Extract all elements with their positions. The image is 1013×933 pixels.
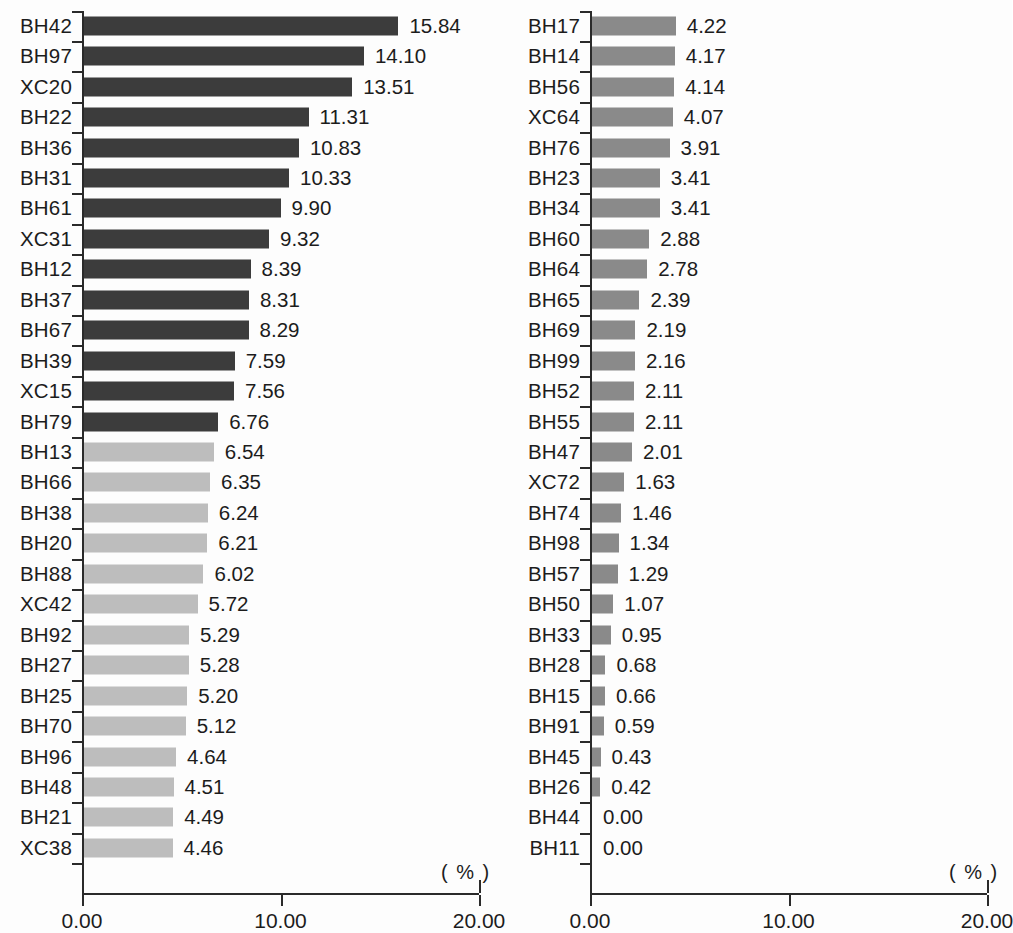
category-label: BH65 — [528, 288, 580, 312]
bar-value-label: 8.39 — [262, 257, 302, 281]
category-label: BH25 — [20, 684, 72, 708]
category-label: BH76 — [528, 136, 580, 160]
bar — [592, 747, 601, 766]
category-label: BH64 — [528, 257, 580, 281]
bar-value-label: 3.41 — [671, 166, 711, 190]
bar-value-label: 7.59 — [246, 349, 286, 373]
category-label: XC15 — [20, 379, 72, 403]
bar-row: BH652.39 — [505, 285, 1012, 315]
bar-value-label: 1.34 — [630, 531, 670, 555]
bar-value-label: 6.24 — [219, 501, 259, 525]
x-axis-tick-label: 20.00 — [453, 909, 506, 933]
bar-value-label: 0.59 — [615, 714, 655, 738]
bar-value-label: 6.54 — [225, 440, 265, 464]
bar-value-label: 0.68 — [616, 653, 656, 677]
bar-row: BH397.59 — [0, 345, 505, 375]
category-label: BH39 — [20, 349, 72, 373]
bar-row: BH571.29 — [505, 559, 1012, 589]
bar — [592, 777, 600, 796]
bar-value-label: 15.84 — [409, 14, 460, 38]
category-label: BH34 — [528, 196, 580, 220]
category-label: BH37 — [20, 288, 72, 312]
bar — [84, 260, 251, 279]
bar-value-label: 0.43 — [612, 745, 652, 769]
bar — [592, 595, 613, 614]
category-label: BH74 — [528, 501, 580, 525]
bar-row: BH255.20 — [0, 680, 505, 710]
bar-row: BH3110.33 — [0, 163, 505, 193]
bar-row: BH4215.84 — [0, 11, 505, 41]
category-label: BH79 — [20, 410, 72, 434]
x-axis-tick-label: 10.00 — [254, 909, 307, 933]
bar-row: BH692.19 — [505, 315, 1012, 345]
bar-value-label: 5.12 — [197, 714, 237, 738]
bar-row: BH386.24 — [0, 498, 505, 528]
right-plot-area: BH174.22BH144.17BH564.14XC644.07BH763.91… — [505, 0, 1012, 933]
category-label: BH88 — [20, 562, 72, 586]
bar-row: BH705.12 — [0, 711, 505, 741]
bar-row: BH522.11 — [505, 376, 1012, 406]
bar — [592, 412, 634, 431]
bar-row: BH330.95 — [505, 620, 1012, 650]
category-label: BH14 — [528, 44, 580, 68]
category-label: BH22 — [20, 105, 72, 129]
bar — [592, 717, 604, 736]
category-label: BH60 — [528, 227, 580, 251]
bar-row: BH233.41 — [505, 163, 1012, 193]
bar-value-label: 14.10 — [375, 44, 426, 68]
bar — [84, 777, 174, 796]
bar-row: BH925.29 — [0, 620, 505, 650]
bar — [592, 686, 605, 705]
bar-row: BH666.35 — [0, 467, 505, 497]
bar-value-label: 2.19 — [646, 318, 686, 342]
bar-value-label: 2.78 — [658, 257, 698, 281]
bar — [84, 747, 176, 766]
category-label: BH13 — [20, 440, 72, 464]
bar-value-label: 10.83 — [310, 136, 361, 160]
bar-row: BH472.01 — [505, 437, 1012, 467]
bar — [84, 595, 198, 614]
category-label: BH99 — [528, 349, 580, 373]
bar-value-label: 2.88 — [660, 227, 700, 251]
bar-value-label: 4.17 — [686, 44, 726, 68]
bar-value-label: 0.66 — [616, 684, 656, 708]
bar-row: XC425.72 — [0, 589, 505, 619]
left-plot-area: BH4215.84BH9714.10XC2013.51BH2211.31BH36… — [0, 0, 505, 933]
bar — [592, 534, 619, 553]
bar — [592, 321, 635, 340]
bar-value-label: 3.41 — [671, 196, 711, 220]
bar-row: BH206.21 — [0, 528, 505, 558]
bar-row: BH642.78 — [505, 254, 1012, 284]
bar — [84, 625, 189, 644]
bar-value-label: 2.39 — [650, 288, 690, 312]
bar — [592, 199, 660, 218]
bar — [592, 443, 632, 462]
bar — [84, 503, 208, 522]
bar-row: BH552.11 — [505, 406, 1012, 436]
bar-value-label: 5.20 — [198, 684, 238, 708]
category-label: BH28 — [528, 653, 580, 677]
bar-value-label: 11.31 — [320, 105, 370, 129]
bar-value-label: 6.35 — [221, 470, 261, 494]
bar — [84, 108, 309, 127]
category-label: BH12 — [20, 257, 72, 281]
bar-row: BH214.49 — [0, 802, 505, 832]
bar — [592, 290, 639, 309]
bar-value-label: 1.07 — [624, 592, 664, 616]
bar-value-label: 9.32 — [280, 227, 320, 251]
bar-row: BH2211.31 — [0, 102, 505, 132]
bar-row: XC644.07 — [505, 102, 1012, 132]
bar-value-label: 1.29 — [629, 562, 669, 586]
bar-value-label: 4.14 — [685, 75, 725, 99]
bar-row: BH678.29 — [0, 315, 505, 345]
bar — [592, 625, 611, 644]
left-chart-panel: BH4215.84BH9714.10XC2013.51BH2211.31BH36… — [0, 0, 505, 933]
category-label: BH91 — [528, 714, 580, 738]
category-label: BH44 — [528, 805, 580, 829]
bar-value-label: 2.16 — [646, 349, 686, 373]
category-label: BH56 — [528, 75, 580, 99]
x-axis-tick — [789, 895, 791, 906]
right-chart-panel: BH174.22BH144.17BH564.14XC644.07BH763.91… — [505, 0, 1012, 933]
bar-row: BH174.22 — [505, 11, 1012, 41]
